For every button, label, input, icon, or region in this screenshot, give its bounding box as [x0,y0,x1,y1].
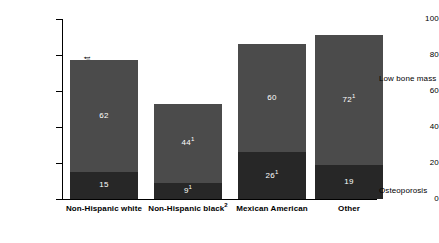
chart-root: Age-adjusted percent 020406080100 621544… [0,0,439,243]
y-tick-20 [56,163,62,164]
legend-label-osteoporosis: Osteoporosis [379,186,427,195]
y-tick-label-0: 0 [387,195,439,203]
y-tick-label-100: 100 [387,15,439,23]
bar-value-osteoporosis: 19 [315,178,383,186]
bar-value-osteoporosis: 261 [238,172,306,180]
y-tick-label-60: 60 [387,87,439,95]
bar-value-low-bone-mass: 60 [238,94,306,102]
bar-value-low-bone-mass: 721 [315,96,383,104]
y-tick-80 [56,55,62,56]
bar-group[interactable]: 6215 [70,60,138,199]
y-tick-100 [56,19,62,20]
bar-group[interactable]: 44191 [154,104,222,199]
y-tick-label-20: 20 [387,159,439,167]
bar-value-osteoporosis: 91 [154,187,222,195]
y-tick-label-80: 80 [387,51,439,59]
y-tick-0 [56,199,62,200]
bar-group[interactable]: 60261 [238,44,306,199]
y-tick-60 [56,91,62,92]
bar-value-low-bone-mass: 441 [154,139,222,147]
bar-value-low-bone-mass: 62 [70,112,138,120]
x-axis-label-4: Other [279,204,419,214]
x-axis-line [62,199,377,200]
legend-label-low-bone-mass: Low bone mass [379,74,436,83]
bar-value-osteoporosis: 15 [70,181,138,189]
y-tick-label-40: 40 [387,123,439,131]
y-axis-line [62,19,63,200]
y-tick-40 [56,127,62,128]
bar-group[interactable]: 72119 [315,35,383,199]
